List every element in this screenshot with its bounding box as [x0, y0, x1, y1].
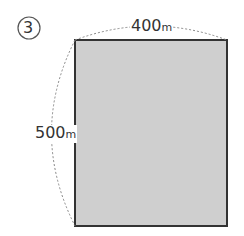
rectangle-field — [75, 40, 227, 226]
diagram: 3 400m 500m — [0, 0, 244, 236]
width-unit: m — [162, 21, 173, 34]
figure-svg — [0, 0, 244, 236]
width-value: 400 — [131, 16, 162, 35]
width-label: 400m — [130, 18, 173, 36]
problem-number: 3 — [23, 20, 33, 36]
height-value: 500 — [35, 123, 66, 142]
height-unit: m — [66, 128, 77, 141]
height-label: 500m — [34, 125, 77, 143]
